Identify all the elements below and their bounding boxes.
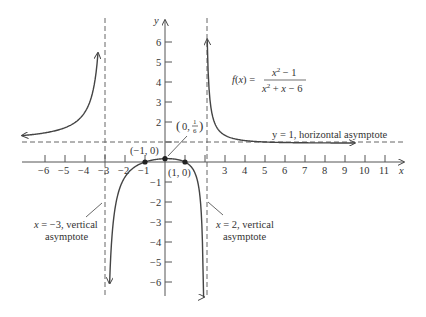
formula-numerator: x2 − 1 — [271, 66, 297, 78]
svg-text:4: 4 — [156, 77, 162, 88]
paren-open: ( — [176, 118, 180, 133]
formula-lhs: f(x) = — [232, 74, 255, 86]
point-1-0 — [182, 159, 187, 164]
svg-text:10: 10 — [359, 165, 370, 176]
x-axis-label: x — [398, 165, 404, 176]
svg-text:5: 5 — [156, 57, 161, 68]
svg-text:6: 6 — [156, 37, 161, 48]
svg-text:−5: −5 — [150, 257, 161, 268]
leader-line-zero — [168, 136, 187, 156]
svg-text:8: 8 — [322, 165, 327, 176]
svg-text:x = −3, vertical: x = −3, vertical — [33, 219, 98, 230]
rational-function-graph: −6−5−4−3−2−134567891011−6−5−4−3−2−123456… — [0, 0, 426, 317]
y-axis-label: y — [153, 15, 159, 26]
svg-text:−3: −3 — [150, 217, 161, 228]
point-label-neg1: (−1, 0) — [130, 145, 159, 157]
horizontal-asymptote-label: y = 1, horizontal asymptote — [272, 129, 388, 140]
svg-text:asymptote: asymptote — [45, 231, 88, 242]
point-label-pos1: (1, 0) — [168, 167, 191, 179]
svg-text:9: 9 — [342, 165, 347, 176]
svg-text:5: 5 — [262, 165, 267, 176]
svg-text:x = 2, vertical: x = 2, vertical — [215, 219, 274, 230]
svg-text:−4: −4 — [150, 237, 162, 248]
svg-text:−4: −4 — [78, 165, 90, 176]
svg-text:4: 4 — [242, 165, 248, 176]
zero-text: 0, — [182, 121, 190, 132]
svg-text:6: 6 — [282, 165, 287, 176]
point-neg1-0 — [142, 159, 147, 164]
frac-num: 1 — [193, 118, 197, 126]
svg-text:−2: −2 — [150, 197, 161, 208]
svg-text:7: 7 — [302, 165, 307, 176]
axes — [22, 20, 404, 296]
svg-text:11: 11 — [379, 165, 389, 176]
svg-text:−3: −3 — [98, 165, 109, 176]
point-0-onesixth — [162, 156, 167, 161]
function-formula: f(x) = x2 − 1 x2 + x − 6 — [232, 66, 306, 94]
svg-text:−1: −1 — [138, 165, 149, 176]
formula-denominator: x2 + x − 6 — [261, 82, 302, 94]
svg-text:3: 3 — [222, 165, 227, 176]
svg-text:3: 3 — [156, 97, 161, 108]
svg-text:−5: −5 — [58, 165, 69, 176]
svg-text:2: 2 — [156, 117, 161, 128]
svg-text:asymptote: asymptote — [223, 231, 266, 242]
point-label-zero: ( 0, 1 6 ) — [168, 118, 203, 156]
asymptote-lines — [22, 18, 406, 298]
paren-close: ) — [199, 118, 203, 133]
svg-text:−1: −1 — [150, 177, 161, 188]
vertical-asymptote-right-label: x = 2, vertical asymptote — [208, 202, 274, 242]
svg-text:−6: −6 — [38, 165, 49, 176]
frac-den: 6 — [193, 127, 197, 135]
vertical-asymptote-left-label: x = −3, vertical asymptote — [33, 203, 102, 242]
svg-text:−6: −6 — [150, 277, 161, 288]
